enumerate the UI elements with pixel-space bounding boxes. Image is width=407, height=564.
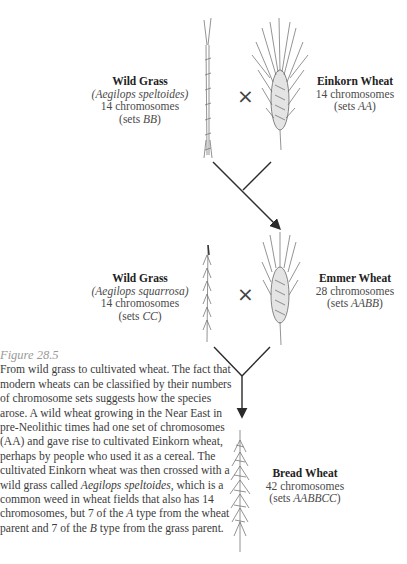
caption-text: From wild grass to cultivated wheat. The… [0,363,231,534]
chromosome-count: 14 chromosomes [88,100,192,113]
einkorn-wheat-label: Einkorn Wheat 14 chromosomes (sets AA) [312,75,398,113]
species-name: Wild Grass [88,75,192,88]
species-name: Einkorn Wheat [312,75,398,88]
cross-symbol-2: × [237,284,254,304]
chromosome-sets: (sets AA) [312,100,398,113]
chromosome-count: 42 chromosomes [262,480,348,493]
emmer-wheat-label: Emmer Wheat 28 chromosomes (sets AABB) [312,272,398,310]
wild-grass-squarrosa-label: Wild Grass (Aegilops squarrosa) 14 chrom… [88,272,192,322]
scientific-name: (Aegilops squarrosa) [88,285,192,298]
cross-symbol-1: × [237,86,254,106]
species-name: Wild Grass [88,272,192,285]
chromosome-sets: (sets AABB) [312,297,398,310]
wild-grass-squarrosa-illustration [203,245,211,342]
scientific-name: (Aegilops speltoides) [88,88,192,101]
chromosome-count: 14 chromosomes [88,297,192,310]
species-name: Bread Wheat [262,467,348,480]
chromosome-count: 28 chromosomes [312,285,398,298]
chromosome-sets: (sets CC) [88,310,192,323]
einkorn-wheat-illustration [252,18,308,150]
wild-grass-speltoides-label: Wild Grass (Aegilops speltoides) 14 chro… [88,75,192,125]
figure-number: Figure 28.5 [0,348,232,362]
wild-grass-speltoides-illustration [204,18,212,158]
chromosome-sets: (sets AABBCC) [262,492,348,505]
bread-wheat-illustration [230,430,250,552]
cross-arrow-1 [213,162,279,228]
chromosome-count: 14 chromosomes [312,88,398,101]
chromosome-sets: (sets BB) [88,113,192,126]
emmer-wheat-illustration [262,232,300,345]
figure-caption: Figure 28.5 From wild grass to cultivate… [0,348,232,536]
bread-wheat-label: Bread Wheat 42 chromosomes (sets AABBCC) [262,467,348,505]
species-name: Emmer Wheat [312,272,398,285]
